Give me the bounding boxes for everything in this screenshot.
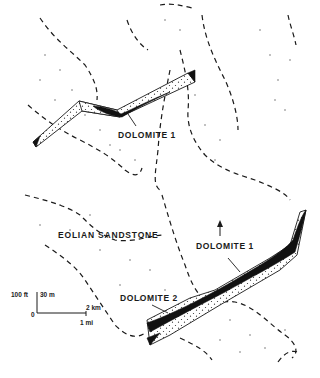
leader-dolomite-1-lower xyxy=(228,258,240,272)
leader-dolomite-2 xyxy=(152,305,168,313)
scale-horizontal-mi: 1 mi xyxy=(80,319,93,326)
label-dolomite-1-lower: DOLOMITE 1 xyxy=(196,241,254,251)
scale-vertical-ft: 100 ft xyxy=(11,291,29,298)
lower-section-band xyxy=(147,210,306,345)
scale-bar: 100 ft 30 m 0 2 km 1 mi xyxy=(11,291,101,326)
scale-vertical-m: 30 m xyxy=(40,291,55,298)
leader-dolomite-1-upper xyxy=(128,114,136,126)
geologic-block-diagram: DOLOMITE 1 EOLIAN SANDSTONE DOLOMITE 1 D… xyxy=(0,0,320,378)
label-eolian-sandstone: EOLIAN SANDSTONE xyxy=(58,230,159,240)
north-arrow-icon xyxy=(217,220,223,236)
scale-horizontal-km: 2 km xyxy=(86,304,101,311)
label-dolomite-1-upper: DOLOMITE 1 xyxy=(118,130,176,140)
label-dolomite-2: DOLOMITE 2 xyxy=(120,293,178,303)
contact-lines xyxy=(25,4,298,362)
scale-origin: 0 xyxy=(31,311,35,318)
